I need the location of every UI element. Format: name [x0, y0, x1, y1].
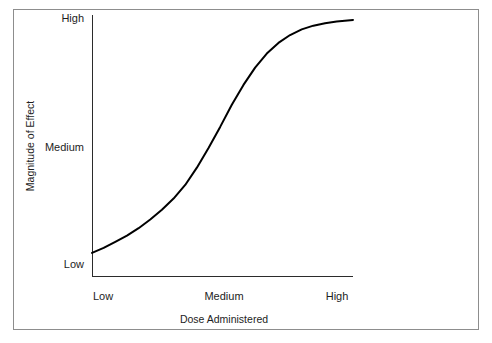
x-tick-label-medium: Medium: [204, 290, 243, 302]
chart-figure: High Medium Low Low Medium High Dose Adm…: [0, 0, 492, 343]
x-axis-line: [92, 276, 353, 277]
y-axis-title: Magnitude of Effect: [24, 101, 36, 191]
y-tick-label-medium: Medium: [45, 141, 84, 153]
x-tick-label-low: Low: [93, 290, 113, 302]
y-tick-label-high: High: [61, 12, 84, 24]
x-axis-title: Dose Administered: [180, 313, 268, 325]
y-axis-line: [92, 15, 93, 277]
y-tick-label-low: Low: [64, 258, 84, 270]
x-tick-label-high: High: [326, 290, 349, 302]
figure-frame: [13, 9, 479, 330]
